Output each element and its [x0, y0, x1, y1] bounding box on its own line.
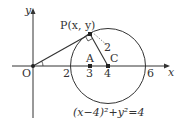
point-P: [88, 32, 92, 36]
point-C-label: C: [110, 52, 118, 65]
point-P-label: P(x, y): [60, 19, 95, 32]
circle-equation: (x−4)²+y²=4: [73, 106, 144, 119]
x-axis-label: x: [168, 66, 175, 79]
tick-4: 4: [104, 67, 111, 80]
tangent-line-OP: [33, 34, 90, 66]
radius-label: 2: [104, 41, 111, 54]
tick-3: 3: [86, 67, 93, 80]
origin-label: O: [22, 67, 31, 80]
point-A-label: A: [85, 52, 95, 65]
point-O: [31, 64, 35, 68]
y-axis-arrow-icon: [31, 8, 36, 14]
y-axis-label: y: [24, 4, 32, 17]
tick-2: 2: [63, 67, 70, 80]
angle-arc: [42, 61, 43, 66]
tick-6: 6: [147, 67, 154, 80]
coordinate-diagram: y x O P(x, y) A C 2 2 3 4 6 (x−4)²+y²=4: [0, 0, 177, 124]
